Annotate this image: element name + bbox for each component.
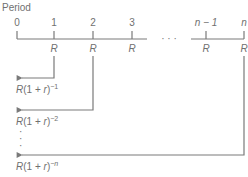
tick-label-2: 2 bbox=[90, 17, 96, 28]
tick-label-3: 3 bbox=[129, 17, 135, 28]
vertical-ellipsis-dot-3: · bbox=[19, 140, 22, 151]
discount-label-1: RR(1 + r)(1 + r)−1 bbox=[16, 83, 58, 95]
tick-label-1: 1 bbox=[51, 17, 57, 28]
payment-label-2: R bbox=[89, 43, 96, 54]
payment-label-n-minus-1: R bbox=[202, 43, 209, 54]
payment-label-1: R bbox=[50, 43, 57, 54]
payment-label-n: R bbox=[240, 43, 247, 54]
tick-label-0: 0 bbox=[14, 17, 20, 28]
present-value-timeline-diagram: Period 0 1 2 3 n − 1 n · · · R R R R R R… bbox=[0, 0, 248, 177]
tick-label-n: n bbox=[241, 17, 247, 28]
timeline-ellipsis: · · · bbox=[161, 33, 177, 44]
tick-label-n-minus-1: n − 1 bbox=[195, 17, 218, 28]
discount-arrow-1 bbox=[22, 56, 54, 78]
discount-label-n: R(1 + r)−n bbox=[16, 160, 58, 172]
period-axis-title: Period bbox=[2, 2, 31, 13]
payment-labels: R R R R R bbox=[50, 43, 247, 54]
payment-label-3: R bbox=[128, 43, 135, 54]
discount-arrow-n bbox=[22, 56, 244, 155]
discount-label-2: R(1 + r)−2 bbox=[16, 115, 58, 127]
period-tick-labels: 0 1 2 3 n − 1 n bbox=[14, 17, 247, 28]
